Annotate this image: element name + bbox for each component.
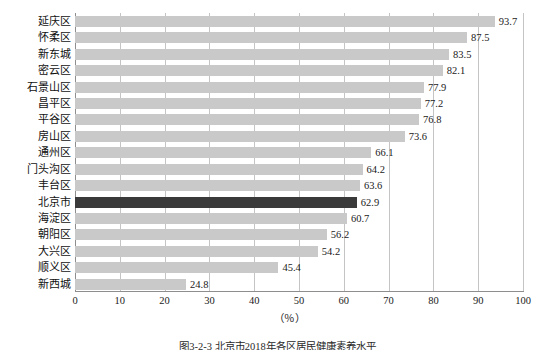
bar-row: 93.7 bbox=[75, 13, 523, 29]
x-tick-100: 100 bbox=[515, 294, 531, 308]
bar-value-label: 73.6 bbox=[409, 129, 427, 144]
bar-value-label: 24.8 bbox=[190, 277, 208, 292]
bar bbox=[75, 49, 449, 60]
x-tick-20: 20 bbox=[159, 294, 170, 308]
category-label: 昌平区 bbox=[0, 96, 71, 111]
bar-row: 76.8 bbox=[75, 111, 523, 127]
x-tick-50: 50 bbox=[294, 294, 305, 308]
bar-row: 60.7 bbox=[75, 210, 523, 226]
bar-row: 63.6 bbox=[75, 177, 523, 193]
category-label: 顺义区 bbox=[0, 260, 71, 275]
bar-value-label: 87.5 bbox=[471, 30, 489, 45]
bar-value-label: 54.2 bbox=[322, 244, 340, 259]
category-label: 平谷区 bbox=[0, 112, 71, 127]
x-tick-0: 0 bbox=[72, 294, 77, 308]
x-tick-40: 40 bbox=[249, 294, 260, 308]
bar-value-label: 77.2 bbox=[425, 96, 443, 111]
category-label: 丰台区 bbox=[0, 178, 71, 193]
category-label: 北京市 bbox=[0, 195, 71, 210]
bar-row: 77.2 bbox=[75, 95, 523, 111]
bar-row: 73.6 bbox=[75, 128, 523, 144]
bar bbox=[75, 180, 360, 191]
category-label: 新东城 bbox=[0, 47, 71, 62]
category-label: 石景山区 bbox=[0, 80, 71, 95]
bar-value-label: 63.6 bbox=[364, 178, 382, 193]
bar-row: 64.2 bbox=[75, 161, 523, 177]
bar-value-label: 62.9 bbox=[361, 195, 379, 210]
bar-row: 82.1 bbox=[75, 62, 523, 78]
bar-value-label: 66.1 bbox=[375, 145, 393, 160]
bar-value-label: 83.5 bbox=[453, 47, 471, 62]
bar-value-label: 82.1 bbox=[447, 63, 465, 78]
bar bbox=[75, 279, 186, 290]
category-label: 怀柔区 bbox=[0, 30, 71, 45]
bar-row: 24.8 bbox=[75, 276, 523, 292]
bar-row: 45.4 bbox=[75, 259, 523, 275]
x-axis-line bbox=[75, 291, 524, 292]
bar bbox=[75, 229, 327, 240]
bar bbox=[75, 262, 278, 273]
bar bbox=[75, 147, 371, 158]
x-tick-10: 10 bbox=[115, 294, 126, 308]
bar bbox=[75, 164, 363, 175]
category-label: 海淀区 bbox=[0, 211, 71, 226]
bar-highlighted bbox=[75, 197, 357, 208]
category-label: 朝阳区 bbox=[0, 227, 71, 242]
bar bbox=[75, 32, 467, 43]
bar-row: 56.2 bbox=[75, 226, 523, 242]
category-label: 新西城 bbox=[0, 277, 71, 292]
bar-value-label: 60.7 bbox=[351, 211, 369, 226]
bar-row: 54.2 bbox=[75, 243, 523, 259]
category-label: 门头沟区 bbox=[0, 162, 71, 177]
category-label: 房山区 bbox=[0, 129, 71, 144]
bar-value-label: 93.7 bbox=[499, 14, 517, 29]
bar-row: 87.5 bbox=[75, 29, 523, 45]
bar-row: 66.1 bbox=[75, 144, 523, 160]
bar-value-label: 45.4 bbox=[282, 260, 300, 275]
bar-value-label: 56.2 bbox=[331, 227, 349, 242]
x-tick-80: 80 bbox=[428, 294, 439, 308]
gridline-100 bbox=[523, 13, 524, 292]
x-tick-30: 30 bbox=[204, 294, 215, 308]
x-tick-90: 90 bbox=[473, 294, 484, 308]
bar bbox=[75, 213, 347, 224]
category-label: 通州区 bbox=[0, 145, 71, 160]
category-axis-labels: 延庆区怀柔区新东城密云区石景山区昌平区平谷区房山区通州区门头沟区丰台区北京市海淀… bbox=[0, 13, 71, 292]
plot-area: 93.787.583.582.177.977.276.873.666.164.2… bbox=[75, 13, 523, 292]
bar-value-label: 77.9 bbox=[428, 80, 446, 95]
bar bbox=[75, 114, 419, 125]
x-axis-unit-text: （％） bbox=[250, 313, 306, 324]
bar-row: 83.5 bbox=[75, 46, 523, 62]
bar-row: 77.9 bbox=[75, 79, 523, 95]
bar bbox=[75, 16, 495, 27]
figure-caption: 图3-2-3 北京市2018年各区居民健康素养水平 bbox=[0, 338, 555, 350]
x-axis-tick-labels: 0102030405060708090100 bbox=[75, 294, 524, 310]
bar bbox=[75, 131, 405, 142]
bar bbox=[75, 98, 421, 109]
category-label: 延庆区 bbox=[0, 14, 71, 29]
x-tick-70: 70 bbox=[383, 294, 394, 308]
x-axis-unit-label: （％） bbox=[0, 310, 555, 325]
category-label: 大兴区 bbox=[0, 244, 71, 259]
bar-row: 62.9 bbox=[75, 194, 523, 210]
bar-value-label: 76.8 bbox=[423, 112, 441, 127]
bar-value-label: 64.2 bbox=[367, 162, 385, 177]
bar bbox=[75, 82, 424, 93]
bar bbox=[75, 246, 318, 257]
figure-container: 延庆区怀柔区新东城密云区石景山区昌平区平谷区房山区通州区门头沟区丰台区北京市海淀… bbox=[0, 0, 555, 350]
bar bbox=[75, 65, 443, 76]
x-tick-60: 60 bbox=[339, 294, 350, 308]
category-label: 密云区 bbox=[0, 63, 71, 78]
